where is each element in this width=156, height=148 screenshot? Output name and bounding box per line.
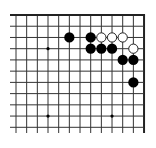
white-stone [97, 33, 106, 42]
black-stone [64, 32, 74, 42]
black-stone [128, 77, 138, 87]
black-stone [96, 44, 106, 54]
star-point [110, 114, 113, 117]
black-stone [86, 44, 96, 54]
go-board [0, 0, 156, 148]
black-stone [107, 44, 117, 54]
white-stone [118, 33, 127, 42]
star-point [46, 47, 49, 50]
black-stone [86, 32, 96, 42]
black-stone [128, 55, 138, 65]
white-stone [107, 33, 116, 42]
board-background [0, 0, 156, 148]
star-point [46, 114, 49, 117]
white-stone [129, 44, 138, 53]
black-stone [118, 55, 128, 65]
